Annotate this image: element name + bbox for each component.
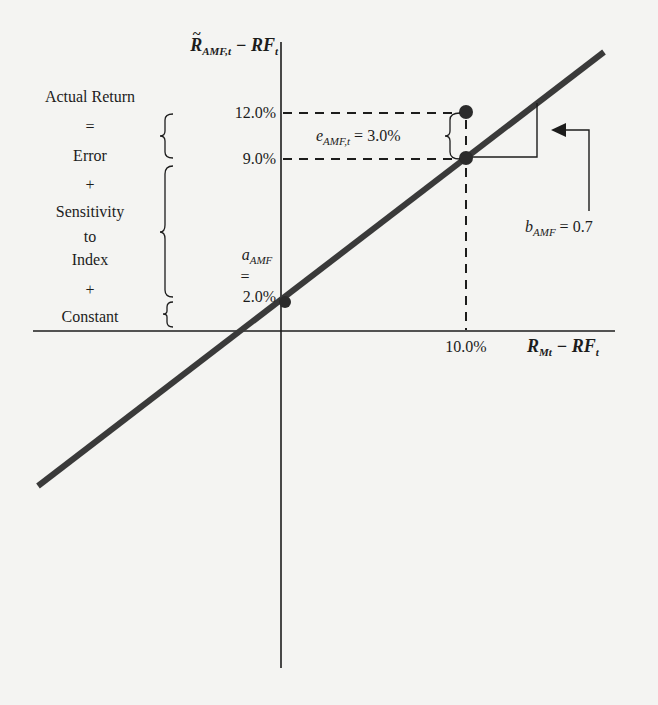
error-decomp-brace xyxy=(160,114,173,158)
beta-prefix: b xyxy=(525,218,533,235)
decomp-index: Index xyxy=(72,251,108,269)
decomp-plus-2: + xyxy=(85,281,94,299)
x-axis-label-rest-sub: t xyxy=(596,346,599,358)
decomp-equals: = xyxy=(85,118,94,136)
error-sub: AMF,t xyxy=(323,135,350,147)
y-axis-label: RAMF,t − RFt xyxy=(190,36,278,60)
fitted-return-point xyxy=(459,151,473,165)
beta-sub: AMF xyxy=(533,226,556,238)
decomp-actual-return: Actual Return xyxy=(45,88,135,106)
y-axis-label-rest-sub: t xyxy=(275,45,278,57)
beta-arrow-line xyxy=(562,130,589,211)
y-axis-label-main: R xyxy=(190,36,202,54)
decomp-error: Error xyxy=(73,147,107,165)
alpha-equals: = xyxy=(240,268,249,286)
y-tick-9pct: 9.0% xyxy=(243,150,276,168)
error-brace xyxy=(445,113,460,159)
constant-decomp-brace xyxy=(163,302,173,327)
x-axis-label: RMt − RFt xyxy=(527,337,599,361)
x-tick-10pct: 10.0% xyxy=(445,338,486,356)
arrow-head-icon xyxy=(551,123,566,137)
y-axis-label-sub: AMF,t xyxy=(202,45,231,57)
error-label: eAMF,t = 3.0% xyxy=(316,127,400,150)
error-value: = 3.0% xyxy=(350,127,400,144)
alpha-label: aAMF xyxy=(242,246,273,269)
intercept-point xyxy=(279,296,291,308)
sensitivity-decomp-brace xyxy=(160,166,173,297)
alpha-sub: AMF xyxy=(250,254,273,266)
characteristic-line-chart: RAMF,t − RFt RMt − RFt 12.0% 9.0% 2.0% 1… xyxy=(0,0,658,705)
y-tick-2pct: 2.0% xyxy=(243,288,276,306)
beta-value: = 0.7 xyxy=(556,218,593,235)
alpha-prefix: a xyxy=(242,246,250,263)
decomp-plus-1: + xyxy=(85,176,94,194)
x-axis-label-main: R xyxy=(527,336,539,356)
regression-line xyxy=(38,52,604,486)
beta-label: bAMF = 0.7 xyxy=(525,218,593,241)
decomp-sensitivity: Sensitivity xyxy=(56,203,124,221)
actual-return-point xyxy=(459,105,473,119)
y-tick-12pct: 12.0% xyxy=(235,104,276,122)
y-axis-label-rest: − RF xyxy=(231,35,275,55)
x-axis-label-rest: − RF xyxy=(552,336,596,356)
decomp-to: to xyxy=(84,228,96,246)
decomp-constant: Constant xyxy=(62,308,119,326)
x-axis-label-sub: Mt xyxy=(539,346,552,358)
